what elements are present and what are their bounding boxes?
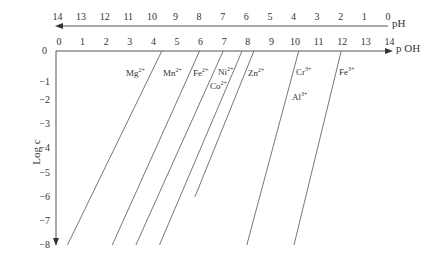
series-line-fe3 xyxy=(294,51,341,245)
ph-tick-labels: 14131211109876543210 xyxy=(53,11,391,22)
y-tick: −5 xyxy=(39,167,50,178)
y-axis: 0−1−2−3−4−5−6−7−8 Log c xyxy=(30,45,59,250)
ph-tick: 11 xyxy=(123,11,133,22)
y-tick: −3 xyxy=(39,118,50,129)
y-tick: −2 xyxy=(39,94,50,105)
poh-tick: 5 xyxy=(175,36,180,47)
poh-tick: 14 xyxy=(384,36,394,47)
solubility-chart: 14131211109876543210 pH 0123456789101112… xyxy=(0,0,436,263)
poh-tick: 4 xyxy=(151,36,156,47)
label-co: Co2+ xyxy=(210,80,228,91)
ph-tick: 12 xyxy=(100,11,110,22)
poh-tick: 9 xyxy=(269,36,274,47)
label-fe3: Fe3+ xyxy=(339,66,355,77)
series-line-mg2 xyxy=(67,51,161,245)
poh-tick: 12 xyxy=(337,36,347,47)
ph-tick: 1 xyxy=(362,11,367,22)
ph-tick: 0 xyxy=(385,11,390,22)
y-axis-arrow-icon xyxy=(53,238,59,246)
y-tick: −7 xyxy=(39,215,50,226)
ph-axis: 14131211109876543210 pH xyxy=(53,11,406,29)
poh-axis-arrow-icon xyxy=(385,48,393,54)
label-zn: Zn2+ xyxy=(248,67,265,78)
ph-tick: 9 xyxy=(173,11,178,22)
y-axis-label: Log c xyxy=(30,139,42,164)
y-tick: −8 xyxy=(39,239,50,250)
y-tick: −6 xyxy=(39,191,50,202)
ph-tick: 13 xyxy=(76,11,86,22)
ph-tick: 14 xyxy=(53,11,63,22)
ph-axis-label: pH xyxy=(392,17,406,29)
poh-axis-label: p OH xyxy=(396,42,420,54)
y-tick: −1 xyxy=(39,76,50,87)
ph-tick: 4 xyxy=(291,11,296,22)
series-lines xyxy=(67,51,341,245)
poh-tick: 10 xyxy=(290,36,300,47)
poh-tick: 13 xyxy=(361,36,371,47)
poh-tick: 6 xyxy=(198,36,203,47)
poh-tick: 2 xyxy=(104,36,109,47)
poh-tick: 11 xyxy=(314,36,324,47)
label-fe2: Fe2+ xyxy=(193,67,209,78)
ph-tick: 8 xyxy=(197,11,202,22)
series-line-cr3 xyxy=(247,51,299,245)
poh-axis: 01234567891011121314 p OH xyxy=(56,36,420,54)
ph-tick: 5 xyxy=(267,11,272,22)
ph-tick: 10 xyxy=(147,11,157,22)
label-mn: Mn2+ xyxy=(163,67,183,78)
series-line-mn2 xyxy=(112,51,199,245)
label-al: Al3+ xyxy=(292,91,308,102)
ph-tick: 6 xyxy=(244,11,249,22)
poh-tick: 7 xyxy=(222,36,227,47)
series-line-ni2 xyxy=(159,51,242,245)
ph-tick: 3 xyxy=(315,11,320,22)
label-mg: Mg2+ xyxy=(126,67,146,78)
poh-tick: 3 xyxy=(127,36,132,47)
poh-tick: 1 xyxy=(80,36,85,47)
label-cr: Cr3+ xyxy=(296,66,312,77)
poh-tick: 8 xyxy=(245,36,250,47)
ph-tick: 2 xyxy=(338,11,343,22)
ph-tick: 7 xyxy=(220,11,225,22)
poh-tick-labels: 01234567891011121314 xyxy=(57,36,395,47)
poh-tick: 0 xyxy=(57,36,62,47)
ph-axis-arrow-icon xyxy=(55,23,63,29)
y-tick: 0 xyxy=(42,45,47,56)
